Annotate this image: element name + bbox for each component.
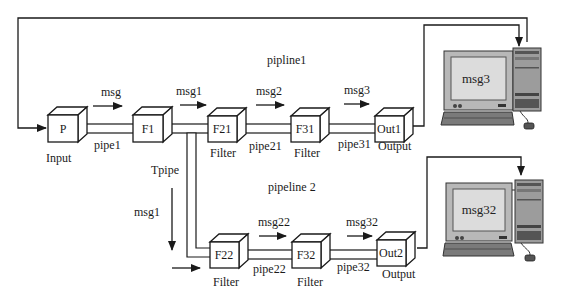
out2-caption: Output <box>382 267 416 281</box>
svg-text:msg22: msg22 <box>258 215 290 229</box>
node-out1: Out1 <box>375 108 413 142</box>
svg-text:F31: F31 <box>296 122 315 136</box>
msg1-arrow-top: msg1 <box>176 84 206 105</box>
f21-caption: Filter <box>210 146 236 160</box>
node-f31: F31 <box>291 108 329 142</box>
svg-text:msg3: msg3 <box>344 83 370 97</box>
svg-text:F1: F1 <box>142 122 155 136</box>
msg1-arrow-down: msg1 <box>134 188 172 250</box>
msg32-arrow: msg32 <box>346 215 378 236</box>
svg-text:F21: F21 <box>213 122 232 136</box>
node-p: P <box>48 107 87 142</box>
f31-caption: Filter <box>294 146 320 160</box>
pipe31-label: pipe31 <box>338 137 371 151</box>
computer-1: msg3 <box>441 48 541 129</box>
node-out2: Out2 <box>377 232 415 266</box>
pipe-filter-diagram: P F1 F21 F31 Out1 F22 F32 <box>0 0 561 301</box>
pipe22 <box>243 250 294 259</box>
msg3-arrow: msg3 <box>344 83 370 104</box>
svg-text:Out1: Out1 <box>377 122 401 136</box>
computer-2: msg32 <box>443 180 543 261</box>
node-f32: F32 <box>292 234 330 268</box>
pipeline1-label: pipline1 <box>267 53 306 67</box>
node-f21: F21 <box>208 108 246 142</box>
pipe31 <box>326 124 378 133</box>
pipe22-label: pipe22 <box>253 262 286 276</box>
svg-text:msg: msg <box>101 85 121 99</box>
msg2-arrow: msg2 <box>256 84 284 105</box>
input-caption: Input <box>46 151 72 165</box>
svg-text:msg2: msg2 <box>256 84 282 98</box>
node-f22: F22 <box>210 234 248 268</box>
tpipe-label: Tpipe <box>151 163 179 177</box>
node-f1: F1 <box>133 107 172 142</box>
svg-text:msg1: msg1 <box>134 205 160 219</box>
screen-text: msg32 <box>462 202 497 217</box>
msg-arrow: msg <box>93 85 122 106</box>
f32-caption: Filter <box>297 275 323 289</box>
svg-text:F32: F32 <box>297 248 316 262</box>
svg-text:P: P <box>60 122 67 136</box>
pipe32 <box>326 250 378 259</box>
svg-text:Out2: Out2 <box>379 246 403 260</box>
pipe21 <box>242 124 294 133</box>
out1-caption: Output <box>378 139 412 153</box>
svg-text:F22: F22 <box>215 248 234 262</box>
screen-text: msg3 <box>462 71 490 86</box>
tpipe <box>187 133 211 257</box>
pipeline2-label: pipeline 2 <box>268 180 316 194</box>
pipe1-label: pipe1 <box>94 138 121 152</box>
pipe32-label: pipe32 <box>337 260 370 274</box>
msg22-arrow: msg22 <box>258 215 290 236</box>
pipe21-label: pipe21 <box>249 139 282 153</box>
svg-text:msg1: msg1 <box>176 84 202 98</box>
svg-text:msg32: msg32 <box>346 215 378 229</box>
f22-caption: Filter <box>213 275 239 289</box>
